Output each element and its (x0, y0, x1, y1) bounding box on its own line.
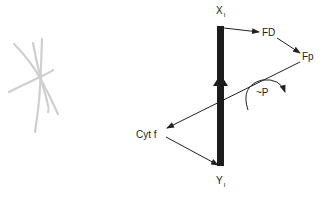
arrow-xi-fd (224, 28, 259, 32)
electron-transport-bar (217, 26, 224, 166)
label-cyt-f: Cyt f (136, 130, 157, 140)
label-fd: FD (262, 28, 275, 38)
label-phosphorylation: ~P (256, 88, 269, 98)
label-x-i: XI (216, 6, 225, 16)
upward-arrow-icon (213, 74, 228, 86)
label-x-i-main: X (216, 5, 223, 16)
diagram-canvas (0, 0, 325, 197)
label-fp: Fp (302, 52, 314, 62)
arrow-fp-cytf (167, 62, 300, 128)
sketch-marks (9, 39, 58, 132)
label-y-i: YI (216, 176, 225, 186)
arrow-fd-fp (277, 38, 300, 53)
arrow-cytf-yi (166, 137, 218, 165)
label-y-i-main: Y (216, 175, 223, 186)
